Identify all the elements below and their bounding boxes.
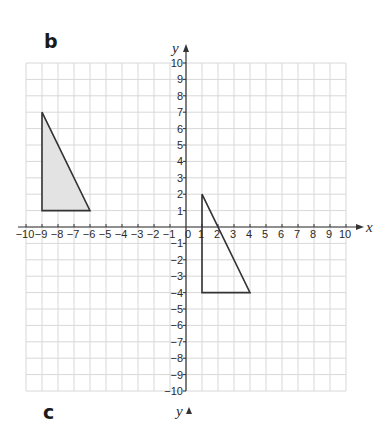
x-axis-arrow-icon xyxy=(356,224,364,230)
x-tick-label: 8 xyxy=(310,228,316,240)
x-tick-label: 3 xyxy=(230,228,236,240)
x-tick-label: −5 xyxy=(99,228,112,240)
y-tick-label: −3 xyxy=(170,270,183,282)
x-tick-label: 4 xyxy=(246,228,252,240)
next-chart-y-axis-label: y xyxy=(174,403,183,419)
x-tick-label: 0 xyxy=(185,228,191,240)
y-tick-label: 9 xyxy=(177,73,183,85)
y-tick-label: 3 xyxy=(177,172,183,184)
y-tick-label: 6 xyxy=(177,123,183,135)
y-tick-label: 10 xyxy=(171,57,183,69)
x-tick-label: 7 xyxy=(294,228,300,240)
coordinate-grid-chart: −10−9−8−7−6−5−4−3−2−1012345678910−10−9−8… xyxy=(0,0,376,422)
y-tick-label: −7 xyxy=(170,336,183,348)
y-tick-label: −8 xyxy=(170,352,183,364)
y-tick-label: 7 xyxy=(177,106,183,118)
x-tick-label: 2 xyxy=(214,228,220,240)
x-axis-label: x xyxy=(365,219,373,235)
x-tick-label: −6 xyxy=(83,228,96,240)
y-tick-label: −6 xyxy=(170,319,183,331)
x-tick-label: 6 xyxy=(278,228,284,240)
y-tick-label: 5 xyxy=(177,139,183,151)
y-tick-label: −1 xyxy=(170,237,183,249)
y-axis-arrow-icon xyxy=(183,44,189,52)
y-tick-label: −2 xyxy=(170,254,183,266)
y-axis-label: y xyxy=(170,40,179,56)
x-tick-label: −10 xyxy=(16,228,35,240)
y-tick-label: 8 xyxy=(177,90,183,102)
x-tick-label: 10 xyxy=(339,228,351,240)
y-tick-label: −9 xyxy=(170,369,183,381)
x-tick-label: −2 xyxy=(147,228,160,240)
x-tick-label: 5 xyxy=(262,228,268,240)
y-tick-label: 4 xyxy=(177,155,183,167)
x-tick-label: −8 xyxy=(51,228,64,240)
next-chart-y-arrow-icon xyxy=(186,407,192,414)
x-tick-label: −3 xyxy=(131,228,144,240)
y-tick-label: 2 xyxy=(177,188,183,200)
y-tick-label: −10 xyxy=(164,385,183,397)
x-tick-label: 9 xyxy=(326,228,332,240)
y-tick-label: −5 xyxy=(170,303,183,315)
x-tick-label: −4 xyxy=(115,228,128,240)
y-tick-label: 1 xyxy=(177,205,183,217)
y-tick-label: −4 xyxy=(170,287,183,299)
x-tick-label: −9 xyxy=(35,228,48,240)
x-tick-label: 1 xyxy=(198,228,204,240)
x-tick-label: −7 xyxy=(67,228,80,240)
